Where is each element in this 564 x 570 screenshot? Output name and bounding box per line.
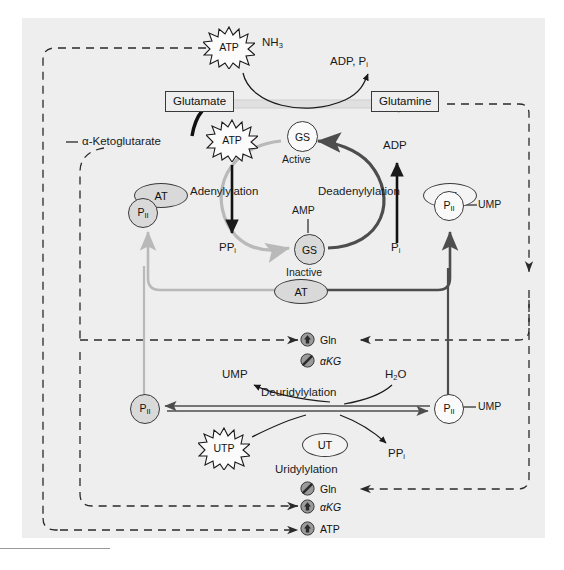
adenylylation-label: Adenylylation (190, 186, 258, 198)
gs-active-node: GS (287, 121, 318, 152)
pii-label-left: PII (137, 206, 148, 220)
h2o-input-curve (344, 385, 392, 404)
feedback-akg-upper (80, 148, 298, 340)
glutamate-node: Glutamate (165, 91, 234, 112)
modulator-akg-lower-label: αKG (320, 501, 341, 513)
pii-right-complex: PII (434, 191, 464, 221)
slash-circle-icon (300, 481, 315, 496)
at-enzyme-center: AT (274, 279, 328, 304)
modulator-akg-upper-label: αKG (320, 355, 341, 367)
feedback-gln-upper (360, 300, 529, 340)
at-to-left-complex (148, 232, 276, 290)
modulator-atp-lower: ATP (300, 521, 340, 536)
up-arrow-circle-icon (300, 332, 315, 347)
h2o-label: H2O (385, 369, 406, 382)
up-arrow-circle-icon (300, 521, 315, 536)
pii-bottom-left: PII (130, 394, 160, 424)
ump-tag-right-bottom: UMP (478, 401, 501, 412)
pii-label-bottom-right: PII (443, 402, 454, 416)
glutamine-node: Glutamine (371, 91, 439, 112)
at-label-center: AT (294, 286, 307, 298)
ump-tag-right-top: UMP (478, 199, 501, 210)
at-label-left: AT (154, 190, 167, 202)
ut-label: UT (318, 439, 333, 451)
atp-star-adenylylation: ATP (206, 118, 258, 162)
ppi-uridylylation-label: PPi (388, 448, 405, 461)
at-to-right-complex (323, 232, 450, 290)
slash-circle-icon (300, 353, 315, 368)
pii-label-bottom-left: PII (139, 402, 150, 416)
amp-label: AMP (292, 205, 315, 216)
footer-rule (0, 548, 110, 549)
adp-label: ADP (383, 140, 407, 152)
deadenylylation-label: Deadenylylation (318, 186, 400, 198)
atp-star-label-2: ATP (206, 118, 258, 162)
deuridylylation-label: Deuridylylation (261, 387, 336, 399)
gs-inactive-node: GS (294, 234, 325, 265)
atp-star-top: ATP (203, 25, 255, 69)
adp-pi-label: ADP, Pi (330, 56, 368, 69)
atp-star-label: ATP (203, 25, 255, 69)
feedback-akg-lower (80, 352, 298, 506)
alpha-ketoglutarate-label: α-Ketoglutarate (82, 136, 161, 148)
deuridylylation-rail (165, 406, 430, 410)
ppi-release-curve (340, 415, 386, 443)
utp-star-uridylylation: UTP (198, 426, 250, 470)
gs-inactive-tag: GS (302, 244, 317, 256)
pi-label: Pi (391, 242, 400, 255)
ump-tag-linkers (462, 205, 477, 407)
utp-star-label: UTP (198, 426, 250, 470)
modulator-gln-lower: Gln (300, 481, 336, 496)
modulator-akg-upper: αKG (300, 353, 341, 368)
uridylylation-label: Uridylylation (275, 464, 338, 476)
utp-input-curve (252, 415, 306, 437)
gs-active-state: Active (282, 154, 311, 165)
modulator-atp-lower-label: ATP (320, 523, 340, 535)
modulator-gln-upper-label: Gln (320, 334, 336, 346)
gs-active-tag: GS (295, 131, 310, 143)
modulator-gln-upper: Gln (300, 332, 336, 347)
pii-left-complex: PII (128, 198, 158, 228)
pii-label-right: PII (443, 199, 454, 213)
nh3-label: NH3 (262, 37, 283, 50)
ump-product-label: UMP (222, 369, 248, 381)
pii-bottom-right: PII (434, 394, 464, 424)
modulator-gln-lower-label: Gln (320, 483, 336, 495)
modulator-akg-lower: αKG (300, 499, 341, 514)
ut-enzyme: UT (302, 433, 348, 457)
ppi-adenylylation-label: PPi (219, 242, 236, 255)
up-arrow-circle-icon (300, 499, 315, 514)
gs-inactive-state: Inactive (286, 267, 322, 278)
figure-canvas: ATP NH3 ADP, Pi Glutamate Glutamine α-Ke… (0, 0, 564, 570)
